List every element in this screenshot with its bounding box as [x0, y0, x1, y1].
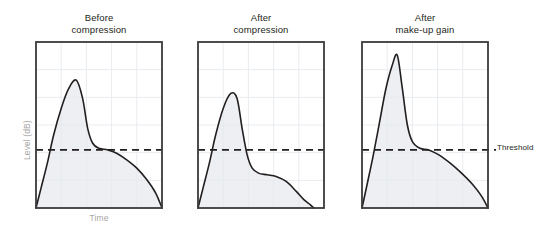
panel-title-line1-2: After [362, 12, 488, 24]
y-axis-label: Level (dB) [22, 120, 32, 160]
panel-title-line1-1: After [198, 12, 324, 24]
panel-title-line2-0: compression [36, 24, 162, 36]
panel-title-1: Aftercompression [198, 12, 324, 36]
plot-panel-1 [197, 41, 325, 209]
signal-area-fill-0 [36, 80, 162, 208]
panel-title-0: Beforecompression [36, 12, 162, 36]
plot-panel-2 [361, 41, 499, 209]
panel-title-2: Aftermake-up gain [362, 12, 488, 36]
plot-panel-0 [35, 41, 163, 209]
threshold-label: Threshold [497, 143, 533, 152]
panel-title-line1-0: Before [36, 12, 162, 24]
compression-figure: BeforecompressionAftercompressionAfterma… [0, 0, 549, 233]
x-axis-label: Time [36, 213, 162, 223]
signal-area-fill-2 [362, 54, 488, 208]
panel-title-line2-2: make-up gain [362, 24, 488, 36]
panel-title-line2-1: compression [198, 24, 324, 36]
